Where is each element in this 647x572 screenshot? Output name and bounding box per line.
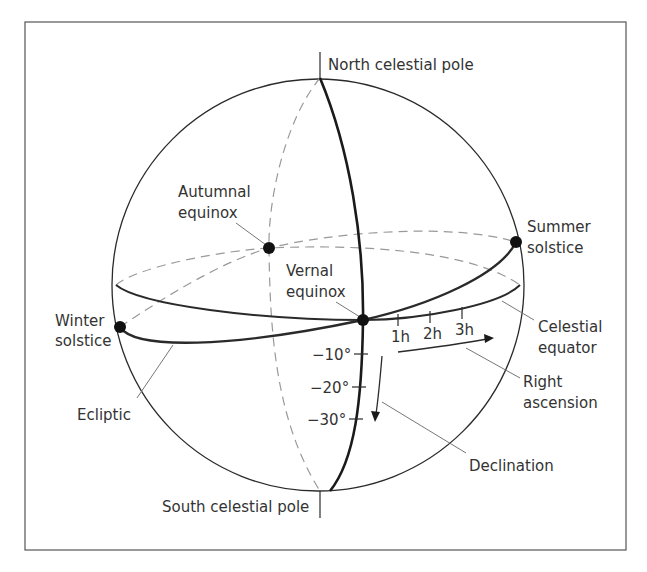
winter-label-1: Winter [55,312,105,330]
winter-solstice-dot [114,321,126,333]
ecliptic-label: Ecliptic [77,406,131,424]
ra-tick-1h: 1h [391,328,410,346]
autumnal-equinox-dot [263,242,275,254]
dec-tick-20: −20° [310,379,349,397]
summer-label-1: Summer [527,218,591,236]
ra-tick-2h: 2h [423,325,442,343]
ra-label-1: Right [523,373,563,391]
declination-arrow [376,356,382,414]
ra-label-2: ascension [523,394,598,412]
ra-tick-3h: 3h [455,321,474,339]
south-pole-label: South celestial pole [162,498,309,516]
dec-tick-30: −30° [307,411,346,429]
summer-solstice-dot [510,236,522,248]
north-pole-label: North celestial pole [328,56,474,74]
vernal-label-2: equinox [286,283,346,301]
celestial-sphere-diagram: North celestial pole South celestial pol… [0,0,647,572]
equator-label-1: Celestial [538,318,602,336]
equator-label-2: equator [538,339,598,357]
autumnal-label-1: Autumnal [178,183,251,201]
winter-label-2: solstice [55,332,112,350]
declination-label: Declination [469,457,554,475]
vernal-label-1: Vernal [286,262,333,280]
dec-tick-10: −10° [312,346,351,364]
right-ascension-arrow [398,339,487,352]
summer-label-2: solstice [527,239,584,257]
vernal-equinox-dot [357,314,369,326]
autumnal-label-2: equinox [178,204,238,222]
